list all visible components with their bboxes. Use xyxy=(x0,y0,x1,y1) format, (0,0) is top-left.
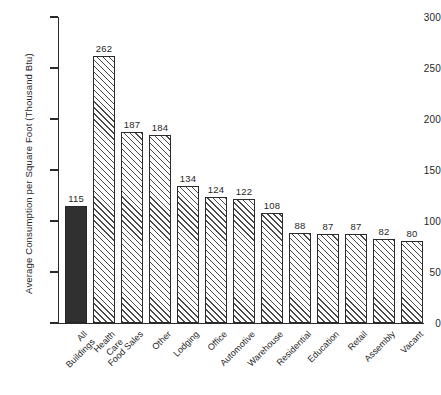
bar-value-label: 262 xyxy=(86,43,122,54)
bar xyxy=(317,234,339,323)
bar xyxy=(401,241,423,323)
bar xyxy=(177,186,199,323)
bar xyxy=(289,233,311,323)
bar xyxy=(65,206,87,323)
bar-value-label: 184 xyxy=(142,122,178,133)
bar-value-label: 122 xyxy=(226,186,262,197)
bar xyxy=(345,234,367,323)
bar xyxy=(373,239,395,323)
bar-value-label: 80 xyxy=(394,228,430,239)
bar xyxy=(149,135,171,323)
bar xyxy=(121,132,143,323)
bar xyxy=(261,213,283,323)
bar xyxy=(233,199,255,323)
bar-value-label: 115 xyxy=(58,193,94,204)
bar-value-label: 108 xyxy=(254,200,290,211)
bar-chart: Average Consumption per Square Foot (Tho… xyxy=(0,0,441,395)
bar xyxy=(93,56,115,323)
bar xyxy=(205,197,227,323)
